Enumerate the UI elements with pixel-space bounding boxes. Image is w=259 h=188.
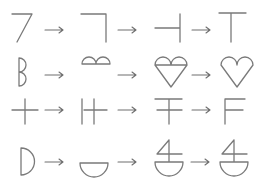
left-tee-icon xyxy=(155,14,180,42)
double-crossbar-t-icon xyxy=(155,99,182,124)
letter-b-icon xyxy=(19,58,26,86)
glyph-grid xyxy=(0,0,259,188)
arrow-icon xyxy=(45,159,63,165)
arrow-icon xyxy=(118,159,136,165)
arrow-icon xyxy=(45,72,63,78)
arrow-icon xyxy=(192,72,210,78)
right-angle-corner-icon xyxy=(81,14,106,42)
arrow-icon xyxy=(192,107,210,113)
arrow-icon xyxy=(192,27,210,33)
transformation-diagram xyxy=(0,0,259,188)
arrow-icon xyxy=(118,107,136,113)
row-2 xyxy=(19,57,253,87)
seven-shape-icon xyxy=(12,14,32,42)
four-on-bowl-icon xyxy=(155,140,183,176)
row-1 xyxy=(12,13,246,42)
row-4 xyxy=(21,140,248,177)
letter-f-icon xyxy=(225,99,245,124)
heart-icon xyxy=(221,57,253,87)
arrow-icon xyxy=(45,27,63,33)
arrow-icon xyxy=(118,27,136,33)
four-on-bowl-icon xyxy=(220,140,248,176)
double-arch-icon xyxy=(82,57,110,64)
plus-icon xyxy=(12,99,38,124)
heart-with-arches-icon xyxy=(155,57,187,87)
double-bar-cross-icon xyxy=(82,99,107,124)
half-bowl-icon xyxy=(80,163,108,177)
arrow-icon xyxy=(45,107,63,113)
row-3 xyxy=(12,99,245,124)
tee-icon xyxy=(219,13,246,42)
arrow-icon xyxy=(118,72,136,78)
arrow-icon xyxy=(191,159,209,165)
letter-d-icon xyxy=(21,148,35,175)
